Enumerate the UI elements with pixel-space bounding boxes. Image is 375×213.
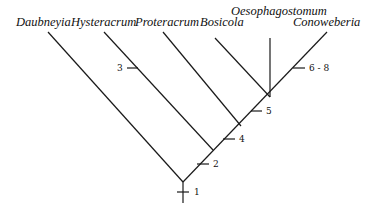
branch-conoweberia-spine	[183, 32, 327, 182]
character-label-1: 1	[194, 187, 200, 197]
branch-daubneyia	[48, 32, 183, 182]
character-label-4: 4	[239, 134, 245, 144]
taxon-label-daubneyia: Daubneyia	[15, 15, 71, 29]
taxon-label-conoweberia: Conoweberia	[293, 15, 360, 29]
character-label-2: 2	[213, 159, 219, 169]
character-label-6-8: 6 - 8	[309, 63, 329, 73]
character-label-5: 5	[266, 106, 272, 116]
taxon-label-hysteracrum: Hysteracrum	[70, 15, 136, 29]
branch-bosicola	[215, 38, 270, 97]
branch-proteracrum	[163, 32, 241, 126]
character-label-3: 3	[117, 63, 123, 73]
taxon-label-proteracrum: Proteracrum	[134, 15, 199, 29]
cladogram: Daubneyia Hysteracrum Proteracrum Bosico…	[0, 0, 375, 213]
branch-hysteracrum	[104, 32, 213, 150]
